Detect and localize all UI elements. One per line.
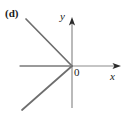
- figure-panel: (d) y x 0: [0, 0, 128, 115]
- origin-label: 0: [74, 67, 80, 78]
- ray-lower-left: [22, 66, 72, 110]
- panel-label: (d): [5, 7, 18, 19]
- ray-upper-left: [26, 19, 72, 66]
- x-axis-label: x: [110, 71, 115, 82]
- y-axis-label: y: [60, 11, 65, 22]
